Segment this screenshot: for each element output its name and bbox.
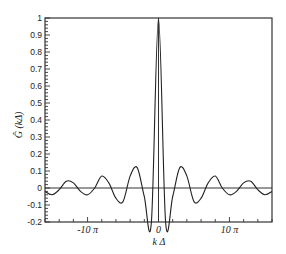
line-chart: 10.90.80.70.60.50.40.30.20.10-0.1-0.2 -1… (0, 0, 286, 254)
y-tick-label: -0.2 (27, 217, 42, 227)
x-tick-label: 0 (156, 224, 161, 235)
y-tick-label: 0.4 (30, 115, 42, 125)
y-tick-label: 0 (37, 183, 42, 193)
y-tick-label: -0.1 (27, 200, 42, 210)
y-tick-label: 0.2 (30, 149, 42, 159)
y-tick-label: 1 (37, 13, 42, 23)
y-tick-label: 0.6 (30, 81, 42, 91)
x-tick-label: -10 π (77, 224, 99, 235)
y-tick-label: 0.7 (30, 64, 42, 74)
y-tick-label: 0.3 (30, 132, 42, 142)
y-tick-label: 0.9 (30, 30, 42, 40)
y-tick-label: 0.5 (30, 98, 42, 108)
y-axis-ticks: 10.90.80.70.60.50.40.30.20.10-0.1-0.2 (27, 13, 50, 227)
y-axis-title: Ĝ (kΔ) (13, 111, 25, 138)
x-tick-label: 10 π (221, 224, 240, 235)
x-axis-title: k Δ (153, 236, 166, 247)
y-tick-label: 0.1 (30, 166, 42, 176)
y-tick-label: 0.8 (30, 47, 42, 57)
